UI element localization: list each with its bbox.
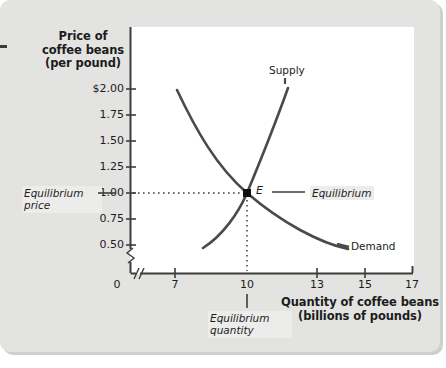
supply-curve [203,88,288,248]
y-axis-break-mark [127,248,134,263]
equilibrium-point-marker [243,189,251,197]
axis-lines [131,27,414,274]
chart-vector-overlay [0,0,446,368]
demand-curve [177,90,348,249]
figure-root: Price ofcoffee beans(per pound) Quantity… [0,0,446,368]
